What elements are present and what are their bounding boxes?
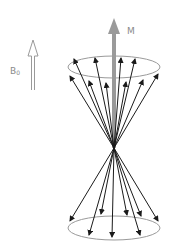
b0-field-arrow-icon xyxy=(28,40,38,90)
spin-vector xyxy=(114,148,141,216)
magnetization-label: M xyxy=(127,27,135,36)
spin-vector xyxy=(70,76,114,148)
spin-vector xyxy=(89,148,114,235)
spin-vector xyxy=(70,148,114,221)
lower-spin-vectors xyxy=(70,148,158,237)
b0-label: B0 xyxy=(10,67,20,76)
spin-vector xyxy=(114,148,140,235)
spin-vector xyxy=(112,148,114,237)
precession-diagram xyxy=(0,0,169,243)
bottom-precession-ellipse xyxy=(68,216,160,240)
spin-vector xyxy=(95,58,114,148)
spin-vector xyxy=(74,59,114,148)
